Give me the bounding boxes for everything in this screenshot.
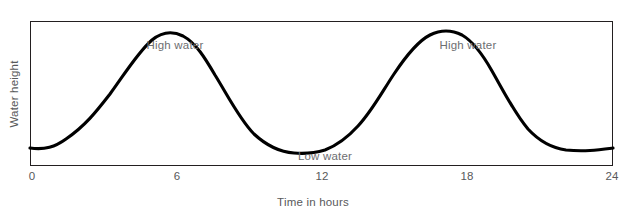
y-axis-title-wrap: Water height [0, 21, 28, 166]
y-axis-title: Water height [8, 60, 20, 127]
annotation-high-water-first: High water [147, 39, 204, 51]
annotation-low-water: Low water [298, 150, 352, 162]
xtick-label-0: 0 [29, 170, 35, 182]
tide-curve-chart: High water Low water High water 0 6 12 1… [0, 0, 626, 216]
xtick-label-24: 24 [606, 170, 619, 182]
xtick-label-18: 18 [461, 170, 474, 182]
plot-area [0, 0, 626, 216]
xtick-label-12: 12 [316, 170, 329, 182]
plot-frame [31, 22, 613, 166]
xtick-label-6: 6 [174, 170, 180, 182]
x-axis-title: Time in hours [0, 196, 626, 208]
annotation-high-water-second: High water [440, 39, 497, 51]
